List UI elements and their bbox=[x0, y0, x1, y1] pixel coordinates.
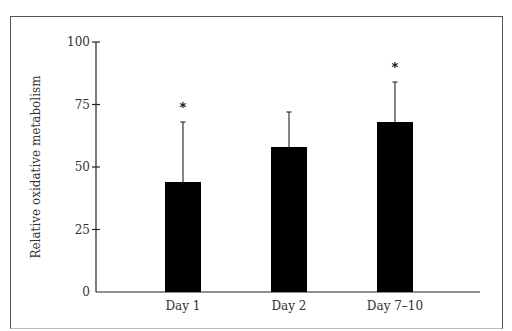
y-axis-title: Relative oxidative metabolism bbox=[29, 75, 43, 259]
y-tick-label: 75 bbox=[75, 98, 90, 112]
significance-marker: * bbox=[392, 60, 399, 75]
y-tick-label: 50 bbox=[75, 160, 90, 174]
y-tick-label: 0 bbox=[82, 285, 90, 299]
bar-1 bbox=[165, 182, 201, 292]
bar-chart: 0255075100Relative oxidative metabolism*… bbox=[0, 0, 512, 331]
y-tick-label: 100 bbox=[67, 35, 90, 49]
x-category-label: Day 7–10 bbox=[367, 299, 423, 313]
bar-3 bbox=[377, 122, 413, 292]
bar-2 bbox=[271, 147, 307, 292]
x-category-label: Day 2 bbox=[271, 299, 306, 313]
y-tick-label: 25 bbox=[75, 223, 90, 237]
significance-marker: * bbox=[180, 100, 187, 115]
x-category-label: Day 1 bbox=[165, 299, 200, 313]
